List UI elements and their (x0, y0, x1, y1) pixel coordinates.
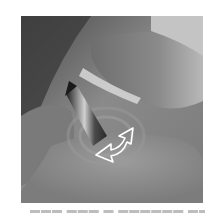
photo-illustration (21, 16, 203, 203)
photo-caption: ▬▬▬ ▬▬▬ ▬ ▬▬▬▬▬▬ ▬▬▬ ▬▬▬ (30, 205, 205, 214)
instruction-photo (21, 16, 203, 203)
